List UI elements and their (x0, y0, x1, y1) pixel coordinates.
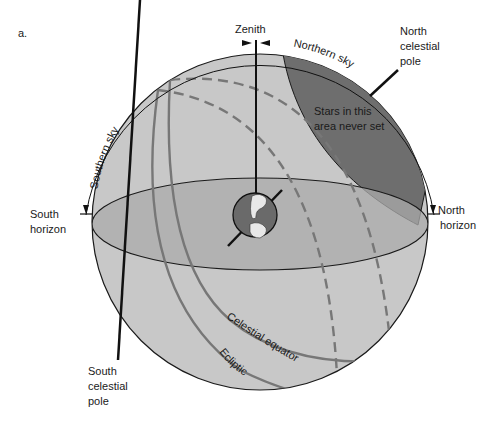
north-celestial-pole-line (370, 70, 398, 96)
north-celestial-pole-label-1: North (400, 25, 427, 37)
circumpolar-note-2: area never set (314, 120, 384, 132)
north-horizon-label-2: horizon (440, 219, 476, 231)
south-celestial-pole-label-2: celestial (88, 380, 128, 392)
south-celestial-pole-label-1: South (88, 365, 117, 377)
circumpolar-note-1: Stars in this (314, 105, 372, 117)
north-horizon-arrow-icon (430, 205, 436, 214)
south-horizon-arrow-icon (83, 205, 89, 214)
earth-icon (233, 193, 277, 238)
south-celestial-pole-label-3: pole (88, 395, 109, 407)
celestial-sphere-diagram: a. Zenith Southern sky Northern sky Nort… (0, 0, 502, 431)
zenith-arrow-left-icon (242, 40, 252, 46)
panel-label: a. (18, 27, 27, 39)
zenith-arrow-right-icon (260, 40, 270, 46)
south-horizon-label-2: horizon (30, 223, 66, 235)
north-celestial-pole-label-2: celestial (400, 40, 440, 52)
north-horizon-label-1: North (438, 204, 465, 216)
zenith-label: Zenith (235, 23, 266, 35)
north-celestial-pole-label-3: pole (400, 55, 421, 67)
south-horizon-label-1: South (30, 208, 59, 220)
